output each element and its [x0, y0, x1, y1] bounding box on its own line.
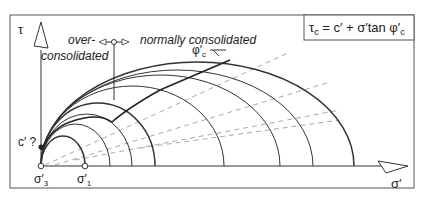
sigma3-label: σ′3 [34, 172, 49, 188]
sigma3-point-icon [38, 163, 44, 169]
left-arrow-icon [99, 39, 106, 45]
mohr-diagram: τc = c′ + σ′tan φ′c τ σ′ φ′c over- conso… [0, 0, 424, 197]
cohesion-label: c′ ? [18, 135, 37, 149]
normally-consolidated-label: normally consolidated [140, 33, 256, 47]
x-axis-arrow-icon [378, 161, 408, 173]
sigma1-label: σ′1 [77, 172, 92, 188]
x-axis-label: σ′ [391, 176, 402, 191]
y-axis-arrow-icon [34, 22, 48, 48]
consolidated-label: consolidated [41, 49, 109, 63]
angle-icon [210, 50, 226, 56]
y-axis-label: τ [18, 22, 24, 37]
divider-point-icon [112, 40, 117, 45]
mohr-circles [41, 62, 354, 166]
dashed-lines [45, 52, 340, 165]
cohesion-point-icon [39, 145, 44, 150]
right-arrow-icon [122, 39, 129, 45]
over-label: over- [68, 33, 95, 47]
formula-text: τc = c′ + σ′tan φ′c [309, 20, 405, 37]
sigma1-point-icon [82, 163, 88, 169]
